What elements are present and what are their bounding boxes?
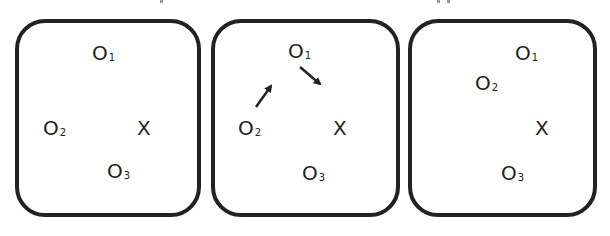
label-o1: O1	[515, 43, 538, 67]
label-o2: O2	[475, 73, 498, 97]
label-o3: O3	[501, 163, 524, 187]
arrow-o2-up-right-icon	[256, 86, 271, 107]
panel-3	[408, 19, 597, 217]
label-x: X	[535, 118, 549, 138]
arrow-o1-down-right-icon	[300, 67, 320, 84]
